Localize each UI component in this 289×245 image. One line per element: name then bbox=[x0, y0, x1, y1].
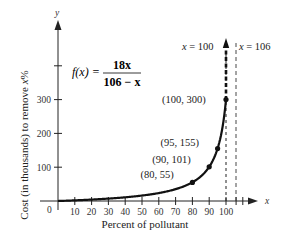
x-tick-label: 90 bbox=[204, 207, 214, 217]
label-x106: x = 106 bbox=[238, 41, 271, 52]
origin-label: 0 bbox=[47, 205, 52, 215]
y-axis-label: Cost (in thousands) to remove x% bbox=[18, 70, 31, 219]
labeled-points: (80, 55)(90, 101)(95, 155)(100, 300) bbox=[140, 94, 228, 185]
y-axis-arrow-icon bbox=[55, 20, 62, 30]
curve-up-arrow-icon bbox=[223, 38, 229, 48]
data-point bbox=[215, 146, 220, 151]
x-axis-label: Percent of pollutant bbox=[102, 218, 189, 230]
x-tick-label: 80 bbox=[188, 207, 198, 217]
formula-lhs: f(x) = bbox=[72, 65, 100, 79]
function-curve bbox=[58, 100, 226, 201]
data-point-label: (100, 300) bbox=[162, 94, 206, 106]
function-formula: f(x) = 18x 106 − x bbox=[72, 58, 141, 89]
data-point bbox=[207, 164, 212, 169]
chart: x y 0 102030405060708090100 100200300 x … bbox=[0, 0, 289, 245]
y-tick-label: 200 bbox=[37, 129, 52, 139]
data-point bbox=[223, 97, 228, 102]
x-tick-label: 20 bbox=[87, 207, 97, 217]
data-point-label: (95, 155) bbox=[161, 137, 200, 149]
x-tick-label: 10 bbox=[70, 207, 80, 217]
x-tick-label: 100 bbox=[219, 207, 234, 217]
data-point bbox=[190, 180, 195, 185]
x-tick-label: 50 bbox=[137, 207, 147, 217]
y-axis-symbol: y bbox=[54, 8, 60, 18]
x-tick-label: 70 bbox=[171, 207, 181, 217]
x-axis-symbol: x bbox=[264, 196, 270, 206]
formula-numerator: 18x bbox=[113, 58, 131, 72]
axes bbox=[40, 26, 250, 210]
y-tick-label: 300 bbox=[37, 95, 52, 105]
label-x100: x = 100 bbox=[181, 41, 214, 52]
data-point-label: (90, 101) bbox=[152, 154, 191, 166]
data-point-label: (80, 55) bbox=[140, 169, 174, 181]
y-tick-label: 100 bbox=[37, 163, 52, 173]
formula-denominator: 106 − x bbox=[104, 75, 141, 89]
x-axis-arrow-icon bbox=[248, 198, 258, 205]
x-tick-label: 40 bbox=[120, 207, 130, 217]
x-tick-label: 30 bbox=[104, 207, 114, 217]
x-tick-label: 60 bbox=[154, 207, 164, 217]
